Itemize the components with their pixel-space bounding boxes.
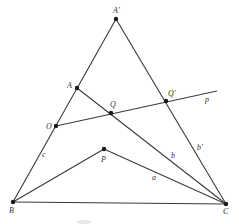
point-p [102,147,106,151]
segment-b-p [13,149,104,202]
label-a: A [66,81,72,90]
point-o [54,124,58,128]
label-a-prime: A' [112,6,120,15]
label-q-prime: Q' [168,89,176,98]
label-c: C [223,207,229,216]
label-p-point: P [100,155,106,164]
faint-artifact [77,220,91,224]
point-q-prime [164,99,168,103]
side-b-aprime [13,19,116,202]
segment-p-c [104,149,226,204]
point-a-prime [114,17,118,21]
geometry-diagram: A' A O Q Q' P B C c b b' a p [0,0,239,224]
side-aprime-c [116,19,226,204]
label-edge-a: a [152,173,156,182]
line-p [56,91,217,126]
label-edge-b: b [171,151,175,160]
label-edge-b-prime: b' [197,143,203,152]
label-q: Q [110,100,116,109]
point-a [75,86,79,90]
point-b [11,200,15,204]
point-c [224,202,228,206]
label-o: O [46,122,52,131]
label-edge-c: c [42,150,46,159]
label-b: B [9,206,14,215]
side-b-c [13,202,226,204]
label-line-p: p [204,95,209,104]
point-q [109,111,113,115]
